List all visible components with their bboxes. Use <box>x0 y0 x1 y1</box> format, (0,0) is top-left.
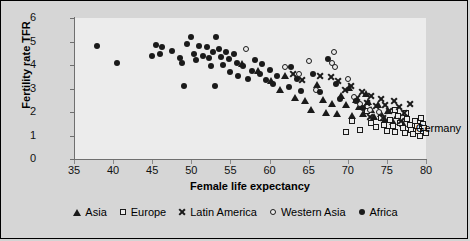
data-point <box>218 54 224 60</box>
data-point <box>291 94 299 101</box>
x-tick-label: 65 <box>295 164 323 176</box>
data-point <box>226 56 232 62</box>
data-point <box>149 53 155 59</box>
data-point <box>206 55 212 61</box>
data-point <box>397 117 405 125</box>
data-point <box>319 96 327 103</box>
legend-item-africa[interactable]: Africa <box>357 206 398 218</box>
data-point <box>343 129 349 135</box>
legend-item-asia[interactable]: Asia <box>72 206 106 218</box>
legend-item-label: Latin America <box>190 206 257 218</box>
x-tick-label: 75 <box>373 164 401 176</box>
data-point <box>367 107 373 113</box>
square-icon <box>118 207 128 217</box>
data-point <box>402 130 408 136</box>
x-tick-label: 50 <box>177 164 205 176</box>
x-axis-title: Female life expectancy <box>74 180 426 192</box>
circle-open-icon <box>268 207 278 217</box>
plot-area <box>74 18 426 159</box>
data-point <box>333 81 339 87</box>
y-axis-line <box>74 17 75 160</box>
legend-item-europe[interactable]: Europe <box>118 206 166 218</box>
y-axis-title: Fertility rate TFR <box>20 9 32 121</box>
data-point <box>212 83 218 89</box>
y-tick-mark <box>70 89 74 90</box>
data-point <box>263 77 269 83</box>
cross-icon <box>177 207 187 217</box>
x-tick-label: 60 <box>256 164 284 176</box>
y-tick-mark <box>70 65 74 66</box>
data-point <box>349 118 355 124</box>
data-point <box>322 109 330 116</box>
data-point <box>274 73 280 79</box>
data-point <box>328 100 336 107</box>
data-point <box>357 127 363 133</box>
data-point <box>333 110 341 117</box>
data-point <box>169 48 175 54</box>
data-point <box>358 88 366 96</box>
annotation-germany: Germany <box>416 123 461 134</box>
data-point <box>345 76 351 82</box>
data-point <box>400 109 408 117</box>
data-point <box>181 83 187 89</box>
data-point <box>179 60 185 66</box>
data-point <box>216 46 222 52</box>
data-point <box>342 101 350 108</box>
data-point <box>316 72 324 80</box>
legend-item-label: Africa <box>370 206 398 218</box>
data-point <box>294 76 300 82</box>
y-tick-mark <box>70 112 74 113</box>
data-point <box>243 46 249 52</box>
data-point <box>235 73 241 79</box>
x-axis-line <box>74 159 427 160</box>
data-point <box>331 49 337 55</box>
triangle-icon <box>72 207 82 217</box>
legend-item-western-asia[interactable]: Western Asia <box>268 206 346 218</box>
data-point <box>281 72 289 79</box>
y-tick-mark <box>70 18 74 19</box>
legend-item-label: Asia <box>85 206 106 218</box>
x-tick-label: 40 <box>99 164 127 176</box>
data-point <box>392 129 398 135</box>
legend-item-latin-america[interactable]: Latin America <box>177 206 257 218</box>
data-point <box>379 114 387 122</box>
data-point <box>384 128 390 134</box>
data-point <box>245 76 251 82</box>
data-point <box>406 100 414 108</box>
data-point <box>347 82 355 90</box>
data-point <box>310 71 316 77</box>
y-tick-mark <box>70 136 74 137</box>
data-point <box>234 60 240 66</box>
y-tick-mark <box>70 42 74 43</box>
x-tick-label: 45 <box>138 164 166 176</box>
data-point <box>276 86 284 93</box>
data-point <box>337 96 343 102</box>
data-point <box>366 113 374 121</box>
y-tick-label: 0 <box>20 153 36 163</box>
x-tick-label: 55 <box>216 164 244 176</box>
data-point <box>223 49 229 55</box>
data-point <box>373 124 379 130</box>
data-point <box>307 106 315 113</box>
data-point <box>267 67 273 73</box>
data-point <box>298 88 304 94</box>
x-tick-label: 80 <box>412 164 440 176</box>
scatter-chart-figure: 012345635404550556065707580 Fertility ra… <box>0 0 468 239</box>
chart-legend: AsiaEuropeLatin AmericaWestern AsiaAfric… <box>1 206 469 218</box>
circle-filled-icon <box>357 207 367 217</box>
legend-item-label: Europe <box>131 206 166 218</box>
data-point <box>220 62 226 68</box>
data-point <box>114 60 120 66</box>
y-tick-label: 1 <box>20 130 36 140</box>
legend-item-label: Western Asia <box>281 206 346 218</box>
data-point <box>301 97 309 104</box>
x-tick-label: 35 <box>60 164 88 176</box>
x-tick-label: 70 <box>334 164 362 176</box>
data-point <box>259 61 265 67</box>
data-point <box>367 92 375 100</box>
